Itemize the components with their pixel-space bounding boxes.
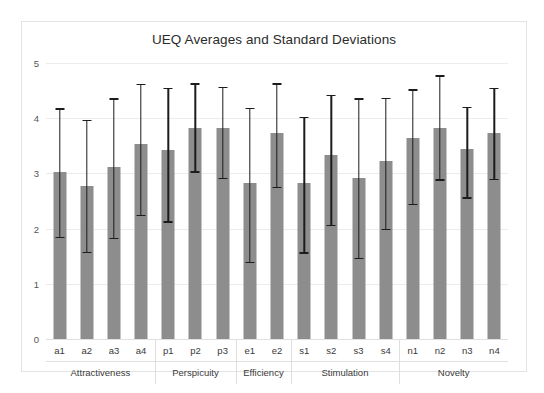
error-bar-n3: [467, 107, 468, 198]
category-label-n3: n3: [454, 340, 481, 362]
bar-group-a4[interactable]: [128, 63, 155, 339]
bar-group-n2[interactable]: [426, 63, 453, 339]
group-label-novelty: Novelty: [399, 362, 508, 384]
error-cap-top-e2: [272, 83, 281, 84]
category-label-a2: a2: [73, 340, 100, 362]
error-cap-top-a2: [82, 120, 91, 121]
bar-group-s2[interactable]: [318, 63, 345, 339]
category-label-s2: s2: [318, 340, 345, 362]
group-separator: [236, 362, 237, 384]
category-label-a4: a4: [128, 340, 155, 362]
bar-group-p3[interactable]: [209, 63, 236, 339]
error-bar-e2: [276, 83, 277, 186]
group-label-perspicuity: Perspicuity: [155, 362, 237, 384]
chart-title: UEQ Averages and Standard Deviations: [22, 32, 526, 47]
category-label-p1: p1: [155, 340, 182, 362]
plot-area: 012345: [46, 63, 508, 339]
bar-group-n4[interactable]: [481, 63, 508, 339]
error-cap-top-s4: [381, 98, 390, 99]
error-bar-a2: [86, 120, 87, 252]
error-bar-a4: [140, 84, 141, 215]
category-label-s4: s4: [372, 340, 399, 362]
group-label-efficiency: Efficiency: [236, 362, 290, 384]
category-label-e2: e2: [263, 340, 290, 362]
bar-group-s3[interactable]: [345, 63, 372, 339]
bar-group-p1[interactable]: [155, 63, 182, 339]
error-cap-top-a3: [109, 98, 118, 99]
bar-group-e1[interactable]: [236, 63, 263, 339]
error-bar-n1: [412, 89, 413, 203]
bar-group-a2[interactable]: [73, 63, 100, 339]
error-cap-bottom-s2: [327, 225, 336, 226]
bars-layer: [46, 63, 508, 339]
bar-group-s4[interactable]: [372, 63, 399, 339]
y-tick-label-2: 2: [34, 223, 39, 234]
group-separator: [291, 362, 292, 384]
error-bar-n4: [494, 88, 495, 179]
category-label-s3: s3: [345, 340, 372, 362]
error-bar-e1: [249, 108, 250, 262]
error-cap-bottom-p2: [191, 171, 200, 172]
category-label-p2: p2: [182, 340, 209, 362]
y-tick-label-4: 4: [34, 113, 39, 124]
group-label-stimulation: Stimulation: [291, 362, 400, 384]
bar-group-p2[interactable]: [182, 63, 209, 339]
group-separator: [399, 362, 400, 384]
error-bar-p3: [222, 87, 223, 178]
category-label-s1: s1: [291, 340, 318, 362]
error-cap-bottom-a2: [82, 252, 91, 253]
error-cap-top-p2: [191, 83, 200, 84]
category-label-n4: n4: [481, 340, 508, 362]
error-cap-bottom-a4: [137, 215, 146, 216]
group-label-attractiveness: Attractiveness: [46, 362, 155, 384]
error-bar-s4: [385, 98, 386, 229]
y-tick-label-1: 1: [34, 278, 39, 289]
error-cap-bottom-p1: [164, 221, 173, 222]
error-cap-top-n3: [463, 107, 472, 108]
category-label-n1: n1: [399, 340, 426, 362]
error-cap-top-n4: [490, 88, 499, 89]
error-cap-top-a1: [55, 108, 64, 109]
category-separator: [236, 340, 237, 362]
error-cap-top-p3: [218, 87, 227, 88]
error-cap-bottom-a3: [109, 238, 118, 239]
category-separator: [291, 340, 292, 362]
category-label-a3: a3: [100, 340, 127, 362]
y-tick-label-0: 0: [34, 334, 39, 345]
error-cap-bottom-s4: [381, 229, 390, 230]
bar-group-e2[interactable]: [263, 63, 290, 339]
category-separator: [399, 340, 400, 362]
error-cap-bottom-e2: [272, 187, 281, 188]
error-cap-top-n2: [436, 75, 445, 76]
y-tick-label-3: 3: [34, 168, 39, 179]
bar-group-s1[interactable]: [291, 63, 318, 339]
error-cap-top-n1: [408, 89, 417, 90]
error-cap-bottom-n2: [436, 179, 445, 180]
category-label-a1: a1: [46, 340, 73, 362]
category-separator: [155, 340, 156, 362]
error-cap-top-s3: [354, 98, 363, 99]
category-label-e1: e1: [236, 340, 263, 362]
error-cap-top-s2: [327, 95, 336, 96]
bar-group-n1[interactable]: [399, 63, 426, 339]
category-label-n2: n2: [426, 340, 453, 362]
error-cap-bottom-n1: [408, 204, 417, 205]
error-bar-p2: [195, 83, 196, 171]
error-bar-s3: [358, 98, 359, 258]
error-cap-bottom-s3: [354, 258, 363, 259]
chart-frame: UEQ Averages and Standard Deviations 012…: [21, 21, 527, 372]
bar-group-n3[interactable]: [454, 63, 481, 339]
error-bar-n2: [439, 75, 440, 179]
error-cap-top-a4: [137, 84, 146, 85]
bar-group-a1[interactable]: [46, 63, 73, 339]
error-cap-top-p1: [164, 88, 173, 89]
error-cap-top-e1: [245, 108, 254, 109]
error-cap-bottom-n3: [463, 197, 472, 198]
y-tick-label-5: 5: [34, 58, 39, 69]
error-cap-bottom-s1: [300, 252, 309, 253]
bar-group-a3[interactable]: [100, 63, 127, 339]
error-cap-bottom-p3: [218, 178, 227, 179]
error-bar-s1: [303, 117, 304, 253]
error-cap-bottom-a1: [55, 237, 64, 238]
error-bar-s2: [331, 95, 332, 225]
